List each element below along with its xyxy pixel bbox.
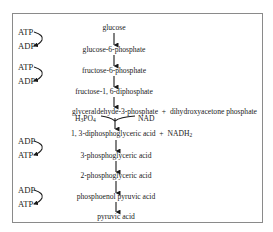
nadh-subscript: 2 [189,132,192,138]
curved-arrow-icon [34,67,42,81]
energy-label-adp: ADP [18,186,35,195]
step-g3p-and-dhap: glyceraldehyde-3-phosphate + dihydroxyac… [72,108,257,116]
step-fructose-6-phosphate: fructose-6-phosphate [82,67,146,75]
energy-label-atp: ATP [18,28,33,37]
po-subscript: 4 [93,117,96,123]
step-glucose-6-phosphate: glucose-6-phosphate [83,46,146,54]
step-phosphoenol-pyruvic-acid: phosphoenol pyruvic acid [77,193,155,201]
step-1-3-diphosphoglyceric-acid: 1, 3-diphosphoglyceric acid + NADH2 [71,130,192,139]
energy-label-atp: ATP [18,200,33,209]
energy-label-atp: ATP [18,63,33,72]
step-fructose-1-6-diphosphate: fructose-1, 6-diphosphate [75,88,153,96]
step-3-phosphoglyceric-acid: 3-phosphoglyceric acid [80,152,151,160]
merge-arrow-left-icon [101,116,115,121]
step-2-phosphoglyceric-acid: 2-phosphoglyceric acid [80,172,151,180]
energy-label-adp: ADP [18,77,35,86]
energy-label-adp: ADP [18,42,35,51]
curved-arrow-icon [34,32,42,46]
merge-arrow-right-icon [115,116,135,121]
po-label: PO [83,114,93,123]
input-phosphoric-acid: H3PO4 [75,115,96,124]
curved-arrow-icon [34,190,42,204]
curved-arrow-icon [34,141,42,155]
step-pyruvic-acid: pyruvic acid [97,213,135,221]
step-glucose: glucose [102,24,125,32]
dpga-label: 1, 3-diphosphoglyceric acid + NADH [71,129,189,138]
input-nad: NAD [138,115,154,123]
energy-label-atp: ATP [18,151,33,160]
energy-label-adp: ADP [18,137,35,146]
